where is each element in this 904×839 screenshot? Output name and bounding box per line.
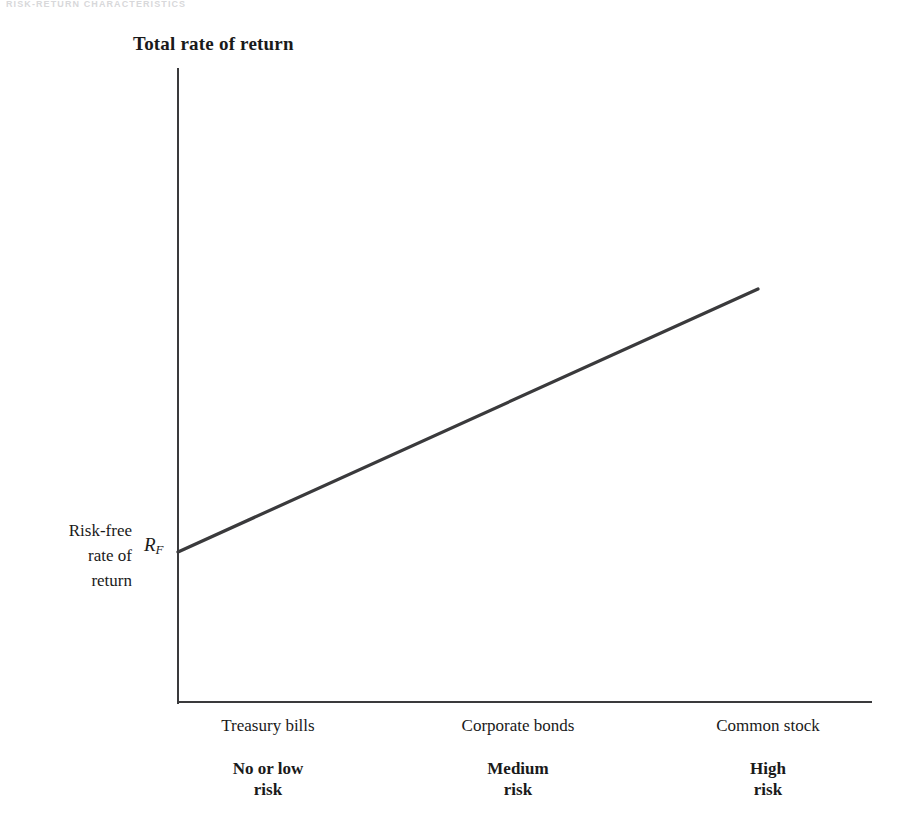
x-risk-level-line-2: risk: [153, 779, 383, 800]
x-risk-level-line-2: risk: [403, 779, 633, 800]
x-risk-level: No or low risk: [153, 758, 383, 800]
x-risk-level-line-1: High: [653, 758, 883, 779]
x-category-common-stock: Common stock High risk: [653, 715, 883, 800]
risk-free-rate-symbol-base: R: [144, 534, 156, 555]
x-risk-level-line-2: risk: [653, 779, 883, 800]
x-category-treasury-bills: Treasury bills No or low risk: [153, 715, 383, 800]
y-axis-annotation-line-2: rate of: [10, 543, 132, 568]
x-risk-level-line-1: Medium: [403, 758, 633, 779]
y-axis-annotation: Risk-free rate of return: [10, 518, 132, 593]
x-risk-level: Medium risk: [403, 758, 633, 800]
cropped-running-head: RISK-RETURN CHARACTERISTICS: [6, 0, 246, 9]
x-category-corporate-bonds: Corporate bonds Medium risk: [403, 715, 633, 800]
x-risk-level: High risk: [653, 758, 883, 800]
x-category-label: Treasury bills: [153, 715, 383, 737]
y-axis-annotation-line-1: Risk-free: [10, 518, 132, 543]
figure-canvas: RISK-RETURN CHARACTERISTICS Total rate o…: [0, 0, 904, 839]
x-axis-line: [177, 701, 872, 703]
risk-free-rate-symbol-subscript: F: [156, 542, 164, 557]
y-axis-annotation-line-3: return: [10, 568, 132, 593]
chart-title: Total rate of return: [133, 33, 294, 55]
x-category-label: Common stock: [653, 715, 883, 737]
x-category-label: Corporate bonds: [403, 715, 633, 737]
y-axis-line: [177, 68, 179, 704]
x-risk-level-line-1: No or low: [153, 758, 383, 779]
return-risk-trend-line: [178, 289, 758, 552]
risk-free-rate-symbol: RF: [144, 534, 164, 558]
plot-area: [0, 0, 904, 839]
